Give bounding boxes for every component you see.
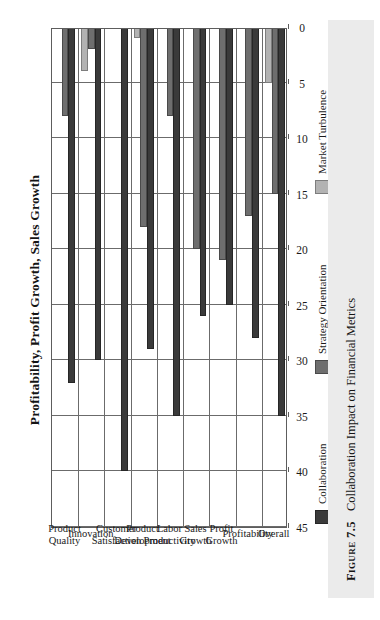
legend-label: Strategy Orientation <box>316 264 328 354</box>
bar-group <box>78 29 104 527</box>
bar <box>62 28 69 116</box>
category-label: ProductQuality <box>27 523 101 546</box>
bar <box>173 28 180 416</box>
figure-number: Figure 7.5 <box>344 521 359 581</box>
bar-group <box>52 29 78 527</box>
chart-title: Profitability, Profit Growth, Sales Grow… <box>27 20 43 580</box>
bar-group <box>183 29 209 527</box>
bar <box>140 28 147 227</box>
bar-group <box>157 29 183 527</box>
bar <box>134 28 141 38</box>
category-label-line: Quality <box>27 534 101 546</box>
legend-label: Collaboration <box>316 444 328 505</box>
bar <box>252 28 259 338</box>
category-label-line: Product <box>27 523 101 535</box>
bar-group <box>209 29 235 527</box>
figure-caption-text: Collaboration Impact on Financial Metric… <box>344 298 359 511</box>
bar <box>193 28 200 249</box>
legend-label: Market Turbulence <box>316 90 328 174</box>
bar <box>121 28 128 471</box>
bar <box>95 28 102 360</box>
bar <box>226 28 233 305</box>
bar <box>147 28 154 349</box>
bar <box>272 28 279 194</box>
bar-group <box>262 29 287 527</box>
bar-group <box>236 29 262 527</box>
bar <box>245 28 252 216</box>
legend-swatch <box>315 510 329 524</box>
bar-group <box>131 29 157 527</box>
bar <box>88 28 95 49</box>
bar-group <box>104 29 130 527</box>
figure-caption-band: Figure 7.5 Collaboration Impact on Finan… <box>328 20 374 598</box>
bar <box>68 28 75 383</box>
figure-page: Profitability, Profit Growth, Sales Grow… <box>0 0 380 620</box>
legend-swatch <box>315 180 329 194</box>
bar <box>219 28 226 260</box>
bar <box>167 28 174 116</box>
bar <box>265 28 272 83</box>
plot-wrapper: 454035302520151050 OverallProfitabilityP… <box>51 28 287 528</box>
bar <box>200 28 207 316</box>
legend-swatch <box>315 360 329 374</box>
chart-stage: Profitability, Profit Growth, Sales Grow… <box>25 0 355 580</box>
plot-area <box>51 28 287 528</box>
bar <box>81 28 88 71</box>
